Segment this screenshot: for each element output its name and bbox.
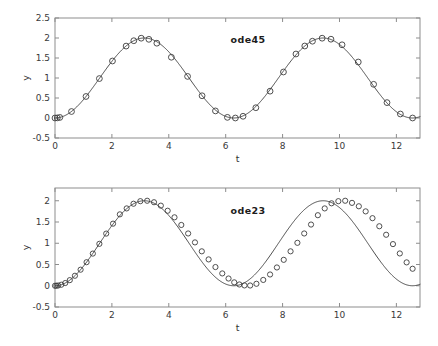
x-tick-label: 10	[334, 141, 346, 151]
data-point-marker	[410, 266, 415, 271]
y-tick-label: 0	[44, 281, 50, 291]
data-point-marker	[336, 199, 341, 204]
data-point-marker	[404, 260, 409, 265]
y-tick-label: 0	[44, 113, 50, 123]
x-tick-label: 4	[166, 141, 172, 151]
data-point-marker	[220, 271, 225, 276]
data-point-marker	[377, 224, 382, 229]
data-point-marker	[293, 51, 299, 57]
x-axis-label: t	[236, 153, 240, 164]
data-point-marker	[322, 206, 327, 211]
y-axis-label: y	[20, 244, 31, 250]
y-tick-label: 1.5	[36, 217, 50, 227]
x-tick-label: 12	[391, 141, 402, 151]
x-axis-label: t	[236, 322, 240, 333]
series-annotation: ode23	[231, 205, 266, 216]
x-tick-label: 2	[109, 310, 115, 320]
y-tick-label: 1.5	[36, 53, 50, 63]
y-axis-label: y	[20, 75, 31, 81]
data-point-marker	[206, 257, 211, 262]
data-point-marker	[274, 265, 279, 270]
x-tick-label: 8	[280, 310, 286, 320]
x-tick-label: 6	[223, 141, 229, 151]
data-point-marker	[254, 281, 259, 286]
data-point-marker	[242, 283, 247, 288]
data-point-marker	[165, 208, 170, 213]
data-point-marker	[288, 249, 293, 254]
chart-panel-ode45: 024681012-0.500.511.522.5tyode45	[0, 0, 438, 173]
data-point-marker	[186, 231, 191, 236]
y-tick-label: 2	[44, 196, 50, 206]
data-point-marker	[248, 283, 253, 288]
data-point-marker	[363, 209, 368, 214]
y-tick-label: 0.5	[36, 93, 50, 103]
data-point-marker	[295, 240, 300, 245]
data-point-marker	[199, 249, 204, 254]
data-point-marker	[172, 215, 177, 220]
data-point-marker	[397, 251, 402, 256]
data-point-marker	[370, 216, 375, 221]
data-line	[55, 38, 420, 118]
x-tick-label: 12	[391, 310, 402, 320]
x-tick-label: 10	[334, 310, 346, 320]
data-point-marker	[349, 200, 354, 205]
x-tick-label: 0	[52, 310, 58, 320]
x-tick-label: 4	[166, 310, 172, 320]
data-point-marker	[226, 276, 231, 281]
data-point-marker	[302, 231, 307, 236]
x-tick-label: 2	[109, 141, 115, 151]
y-tick-label: 2.5	[36, 13, 50, 23]
y-tick-label: -0.5	[32, 133, 50, 143]
data-point-marker	[213, 264, 218, 269]
x-tick-label: 0	[52, 141, 58, 151]
chart-panel-ode23: 024681012-0.500.511.52tyode23	[0, 173, 438, 346]
data-point-marker	[356, 204, 361, 209]
data-point-marker	[308, 222, 313, 227]
plot-area-ode23: 024681012-0.500.511.52tyode23	[0, 173, 438, 346]
data-point-marker	[267, 272, 272, 277]
y-tick-label: 1	[44, 238, 50, 248]
x-tick-label: 8	[280, 141, 286, 151]
y-tick-label: -0.5	[32, 302, 50, 312]
x-tick-label: 6	[223, 310, 229, 320]
data-point-marker	[232, 280, 237, 285]
series-annotation: ode45	[231, 34, 266, 45]
data-point-marker	[281, 69, 287, 75]
figure-container: 024681012-0.500.511.522.5tyode45 0246810…	[0, 0, 438, 346]
data-point-marker	[315, 213, 320, 218]
y-tick-label: 2	[44, 33, 50, 43]
data-point-marker	[253, 105, 259, 111]
data-point-marker	[390, 242, 395, 247]
data-point-marker	[192, 240, 197, 245]
plot-area-ode45: 024681012-0.500.511.522.5tyode45	[0, 0, 438, 173]
data-point-marker	[213, 108, 219, 114]
y-tick-label: 1	[44, 73, 50, 83]
data-point-marker	[343, 198, 348, 203]
data-point-marker	[384, 232, 389, 237]
data-point-marker	[261, 277, 266, 282]
data-point-marker	[281, 257, 286, 262]
y-tick-label: 0.5	[36, 260, 50, 270]
data-point-marker	[179, 222, 184, 227]
